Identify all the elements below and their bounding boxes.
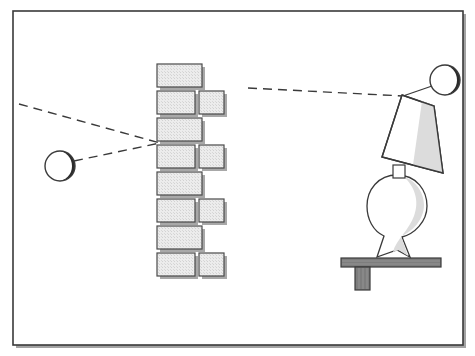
brick [157,199,195,222]
lamp-neck [393,165,405,178]
table-top [341,258,441,267]
brick [157,118,202,141]
brick [157,226,202,249]
table-leg [355,267,370,290]
brick [199,199,224,222]
brick [157,64,202,87]
brick [157,253,195,276]
brick [157,172,202,195]
brick [199,145,224,168]
brick [199,91,224,114]
illustration-root [0,0,475,356]
diagram-canvas [0,0,475,356]
brick [157,145,195,168]
brick [199,253,224,276]
brick [157,91,195,114]
